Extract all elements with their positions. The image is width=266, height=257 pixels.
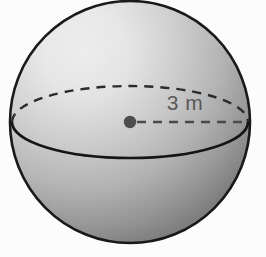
radius-label: 3 m [167,91,204,114]
sphere-center-dot [124,116,136,128]
sphere-diagram-svg: 3 m [0,0,266,257]
sphere-figure: 3 m [0,0,266,257]
